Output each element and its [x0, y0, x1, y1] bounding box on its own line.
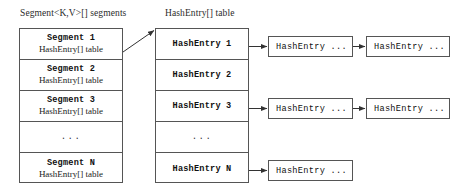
- segments-table: Segment 1 HashEntry[] table Segment 2 Ha…: [19, 28, 123, 183]
- hashentry-row-title: HashEntry 1: [173, 39, 232, 49]
- hashentry-row-3[interactable]: HashEntry 3: [156, 91, 248, 122]
- chain-node-label: HashEntry ...: [374, 42, 445, 52]
- segment-row-2[interactable]: Segment 2 HashEntry[] table: [20, 60, 122, 91]
- chain-node-label: HashEntry ...: [276, 166, 347, 176]
- ellipsis-label: ...: [192, 132, 213, 142]
- ellipsis-label: ...: [61, 132, 82, 142]
- segment-row-subtitle: HashEntry[] table: [39, 169, 103, 180]
- segment-row-title: Segment 3: [47, 95, 95, 106]
- hashentry-column-header: HashEntry[] table: [165, 8, 235, 18]
- chain-node-row1-2[interactable]: HashEntry ...: [366, 36, 450, 57]
- chain-node-row1-1[interactable]: HashEntry ...: [268, 36, 353, 57]
- hashentry-row-2[interactable]: HashEntry 2: [156, 60, 248, 91]
- segment-row-subtitle: HashEntry[] table: [39, 75, 103, 86]
- chain-node-rown-1[interactable]: HashEntry ...: [268, 160, 353, 181]
- hashentry-row-title: HashEntry 3: [173, 101, 232, 111]
- chain-node-label: HashEntry ...: [276, 42, 347, 52]
- segment-row-subtitle: HashEntry[] table: [39, 106, 103, 117]
- hashentry-row-title: HashEntry N: [173, 164, 232, 174]
- arrow-segment1-to-hashentry-table: [123, 31, 154, 53]
- diagram-canvas: Segment<K,V>[] segments HashEntry[] tabl…: [0, 0, 460, 193]
- hashentry-row-1[interactable]: HashEntry 1: [156, 29, 248, 60]
- hashentry-row-n[interactable]: HashEntry N: [156, 153, 248, 184]
- segment-row-ellipsis: ...: [20, 122, 122, 153]
- chain-node-row3-2[interactable]: HashEntry ...: [366, 98, 450, 119]
- segment-row-title: Segment N: [47, 158, 95, 169]
- segment-row-n[interactable]: Segment N HashEntry[] table: [20, 153, 122, 184]
- segment-row-1[interactable]: Segment 1 HashEntry[] table: [20, 29, 122, 60]
- chain-node-label: HashEntry ...: [276, 104, 347, 114]
- hashentry-row-title: HashEntry 2: [173, 70, 232, 80]
- hashentry-row-ellipsis: ...: [156, 122, 248, 153]
- segment-row-subtitle: HashEntry[] table: [39, 44, 103, 55]
- chain-node-row3-1[interactable]: HashEntry ...: [268, 98, 353, 119]
- segments-column-header: Segment<K,V>[] segments: [20, 8, 126, 18]
- segment-row-3[interactable]: Segment 3 HashEntry[] table: [20, 91, 122, 122]
- segment-row-title: Segment 2: [47, 64, 95, 75]
- segment-row-title: Segment 1: [47, 33, 95, 44]
- chain-node-label: HashEntry ...: [374, 104, 445, 114]
- hashentry-table: HashEntry 1 HashEntry 2 HashEntry 3 ... …: [155, 28, 249, 183]
